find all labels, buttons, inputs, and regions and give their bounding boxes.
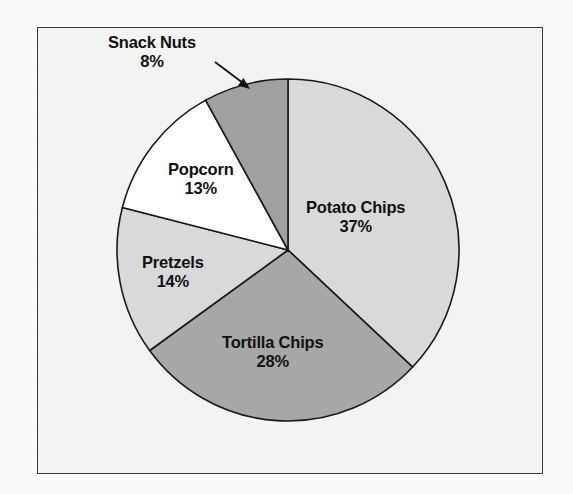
slice-label-snack-nuts-value: 8% — [108, 52, 196, 71]
slice-label-pretzels-value: 14% — [142, 272, 204, 291]
slice-label-pretzels-name: Pretzels — [142, 253, 204, 272]
snack-nuts-leader-arrow — [215, 62, 250, 89]
pie-chart-graphic — [0, 0, 573, 494]
slice-label-pretzels: Pretzels 14% — [142, 253, 204, 292]
slice-label-snack-nuts: Snack Nuts 8% — [108, 33, 196, 72]
slice-label-popcorn-name: Popcorn — [168, 160, 234, 179]
slice-label-tortilla-chips-name: Tortilla Chips — [222, 333, 323, 352]
slice-label-popcorn-value: 13% — [168, 179, 234, 198]
slice-label-tortilla-chips-value: 28% — [222, 352, 323, 371]
pie-chart-screenshot: Potato Chips 37% Tortilla Chips 28% Pret… — [0, 0, 573, 494]
slice-label-potato-chips: Potato Chips 37% — [306, 198, 405, 237]
slice-label-tortilla-chips: Tortilla Chips 28% — [222, 333, 323, 372]
slice-label-potato-chips-value: 37% — [306, 217, 405, 236]
slice-label-snack-nuts-name: Snack Nuts — [108, 33, 196, 52]
slice-label-popcorn: Popcorn 13% — [168, 160, 234, 199]
slice-label-potato-chips-name: Potato Chips — [306, 198, 405, 217]
